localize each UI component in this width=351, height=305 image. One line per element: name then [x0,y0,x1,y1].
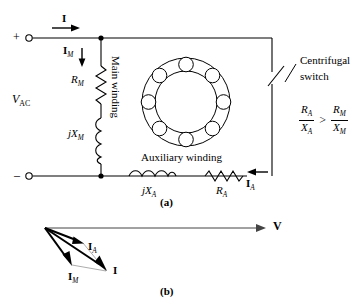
aux-current-label: IA [246,178,255,192]
phasor-voltage-label: V [273,220,282,232]
inequality-left-denominator: XA [299,122,314,137]
reactance-jXM-label: jXM [68,128,84,142]
centrifugal-switch-blade [268,66,284,86]
positive-terminal-sign: + [13,31,20,43]
stator-ring [141,57,231,147]
stator-slot [205,68,220,83]
arrow-main-current-IM [79,48,86,67]
phasor-total-current-label: I [113,265,117,276]
positive-terminal-circle [26,35,32,41]
inequality-right-denominator: XM [331,122,348,137]
inequality-left-numerator: RA [299,104,314,119]
resistor-RM-label: RM [71,74,84,88]
main-winding-label: Main winding [110,56,121,118]
stator-slot [179,132,194,147]
panel-b-caption: (b) [160,285,173,297]
centrifugal-switch-label-line1: Centrifugal [300,55,350,66]
negative-terminal-sign: – [14,169,20,181]
reactance-jXA-label: jXA [142,185,156,199]
stator-slot [205,121,220,136]
inequality-right-fraction: RM XM [331,104,348,137]
resistor-RA-label: RA [216,185,227,199]
phasor-aux-current-label: IA [88,241,97,255]
resistor-RM [96,66,106,104]
stator-slot [152,121,167,136]
panel-a-caption: (a) [160,196,173,208]
inequality-left-fraction: RA XA [299,104,314,137]
arrow-aux-current-IA [247,169,268,176]
switch-label-leader [285,64,296,82]
phasor-vector-I [45,228,107,271]
stator-slot [216,95,231,110]
main-current-label: IM [63,45,73,59]
inequality-operator: > [319,113,326,128]
arrow-line-current-I [52,25,80,32]
line-current-label: I [62,13,66,24]
inductor-jXM [96,118,101,164]
inequality-expression: RA XA > RM XM [299,104,348,137]
stator-slot [141,95,156,110]
auxiliary-winding-label: Auxiliary winding [141,152,222,163]
phasor-panel [45,224,266,271]
stator-slot [179,57,194,72]
phasor-main-current-label: IM [68,271,78,285]
phasor-vector-V [45,224,266,232]
negative-terminal-circle [26,173,32,179]
centrifugal-switch-label-line2: switch [300,71,329,82]
source-voltage-label: VAC [12,93,30,108]
stator-slot [152,68,167,83]
inequality-right-numerator: RM [331,104,348,119]
figure-root: VAC + – I IM IA RM jXM jXA RA Main windi… [0,0,351,305]
inductor-jXA [129,171,176,176]
